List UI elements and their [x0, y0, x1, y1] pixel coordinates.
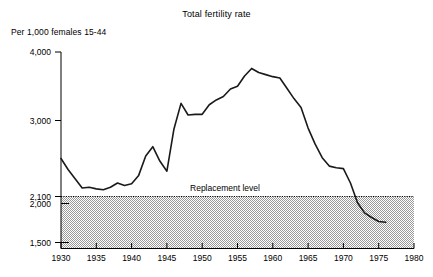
plot-area: 4,000 3,000 2,100 2,000 1,500 1930 1935 … — [0, 0, 433, 277]
y-axis-tick-labels: 4,000 3,000 2,100 2,000 1,500 — [30, 47, 52, 248]
x-tick-label: 1935 — [87, 253, 106, 263]
x-tick-label: 1950 — [193, 253, 212, 263]
x-tick-label: 1945 — [157, 253, 176, 263]
x-tick-label: 1975 — [369, 253, 388, 263]
y-tick-label: 2,000 — [30, 199, 52, 209]
x-tick-label: 1930 — [52, 253, 71, 263]
y-tick-label: 1,500 — [30, 238, 52, 248]
x-tick-label: 1960 — [263, 253, 282, 263]
x-axis-tick-labels: 1930 1935 1940 1945 1950 1955 1960 1965 … — [52, 253, 424, 263]
below-replacement-shaded-region — [61, 197, 414, 249]
fertility-rate-chart: Total fertility rate Per 1,000 females 1… — [0, 0, 433, 277]
x-tick-label: 1970 — [334, 253, 353, 263]
x-tick-label: 1955 — [228, 253, 247, 263]
y-tick-label: 3,000 — [30, 116, 52, 126]
x-tick-label: 1940 — [122, 253, 141, 263]
replacement-level-label: Replacement level — [190, 183, 260, 193]
x-tick-label: 1980 — [405, 253, 424, 263]
x-tick-label: 1965 — [299, 253, 318, 263]
y-tick-label: 4,000 — [30, 47, 52, 57]
